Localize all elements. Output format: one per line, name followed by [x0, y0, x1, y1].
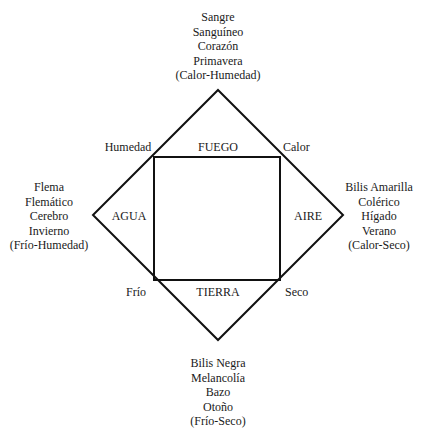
- humor-season: Verano: [338, 224, 420, 239]
- inner-square: [154, 157, 280, 280]
- humor-qualities: (Calor-Seco): [338, 238, 420, 253]
- humor-fluid: Flema: [4, 180, 94, 195]
- humor-fluid: Bilis Negra: [168, 356, 268, 371]
- humor-block-right: Bilis Amarilla Colérico Hígado Verano (C…: [338, 180, 420, 253]
- humor-block-top: Sangre Sanguíneo Corazón Primavera (Calo…: [168, 10, 268, 83]
- element-air: AIRE: [283, 209, 333, 224]
- humor-organ: Corazón: [168, 39, 268, 54]
- humor-qualities: (Frío-Seco): [168, 414, 268, 429]
- humor-organ: Bazo: [168, 385, 268, 400]
- humor-season: Otoño: [168, 400, 268, 415]
- humor-fluid: Sangre: [168, 10, 268, 25]
- quality-heat: Calor: [283, 140, 323, 155]
- element-fire: FUEGO: [188, 140, 248, 155]
- humor-organ: Cerebro: [4, 209, 94, 224]
- humor-temperament: Colérico: [338, 195, 420, 210]
- humor-fluid: Bilis Amarilla: [338, 180, 420, 195]
- quality-cold: Frío: [120, 285, 152, 300]
- humor-qualities: (Frío-Humedad): [4, 238, 94, 253]
- element-earth: TIERRA: [183, 285, 253, 300]
- element-water: AGUA: [104, 209, 154, 224]
- humor-season: Primavera: [168, 54, 268, 69]
- humor-temperament: Melancolía: [168, 371, 268, 386]
- humor-block-left: Flema Flemático Cerebro Invierno (Frío-H…: [4, 180, 94, 253]
- quality-humidity: Humedad: [98, 140, 158, 155]
- humor-temperament: Flemático: [4, 195, 94, 210]
- humor-temperament: Sanguíneo: [168, 25, 268, 40]
- quality-dry: Seco: [285, 285, 325, 300]
- humor-block-bottom: Bilis Negra Melancolía Bazo Otoño (Frío-…: [168, 356, 268, 429]
- humor-season: Invierno: [4, 224, 94, 239]
- humor-organ: Hígado: [338, 209, 420, 224]
- humor-qualities: (Calor-Humedad): [168, 68, 268, 83]
